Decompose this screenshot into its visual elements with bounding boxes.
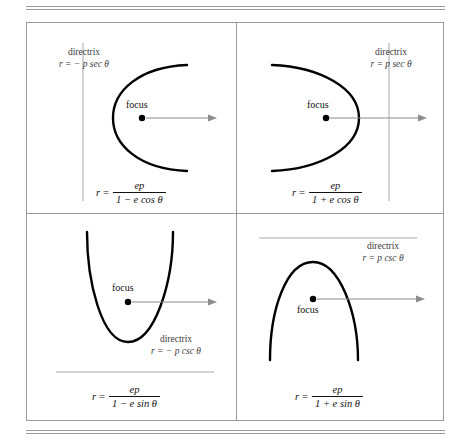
axis-arrowhead bbox=[208, 115, 217, 122]
directrix-title: directrix bbox=[160, 334, 192, 344]
directrix-title: directrix bbox=[375, 47, 407, 57]
equation-equals: = bbox=[302, 391, 308, 402]
polar-equation-top-left: r = ep 1 − e cos θ bbox=[96, 180, 166, 205]
directrix-label-bottom-left: directrix r = − p csc θ bbox=[131, 334, 221, 357]
panel-top-right: directrix r = p sec θ focus r = ep 1 + e… bbox=[237, 23, 445, 213]
focus-point bbox=[310, 296, 316, 302]
focus-point bbox=[125, 299, 131, 305]
directrix-equation: r = − p csc θ bbox=[131, 346, 221, 357]
equation-fraction: ep 1 + e sin θ bbox=[312, 384, 363, 409]
fraction-numerator: ep bbox=[131, 180, 147, 192]
equation-fraction: ep 1 + e cos θ bbox=[309, 180, 362, 205]
directrix-equation: r = p sec θ bbox=[350, 59, 432, 70]
fraction-numerator: ep bbox=[330, 384, 346, 396]
directrix-title: directrix bbox=[68, 47, 100, 57]
fraction-denominator: 1 − e cos θ bbox=[113, 193, 166, 205]
equation-equals: = bbox=[99, 391, 105, 402]
focus-label-bottom-left: focus bbox=[112, 282, 134, 294]
directrix-label-bottom-right: directrix r = p csc θ bbox=[340, 241, 426, 264]
equation-fraction: ep 1 − e sin θ bbox=[109, 384, 160, 409]
top-double-rule bbox=[26, 6, 445, 10]
fraction-numerator: ep bbox=[127, 384, 143, 396]
equation-lhs: r bbox=[92, 391, 96, 402]
equation-equals: = bbox=[103, 187, 109, 198]
polar-equation-top-right: r = ep 1 + e cos θ bbox=[292, 180, 362, 205]
fraction-denominator: 1 + e sin θ bbox=[312, 397, 363, 409]
polar-equation-bottom-right: r = ep 1 + e sin θ bbox=[295, 384, 363, 409]
directrix-equation: r = − p sec θ bbox=[43, 59, 125, 70]
directrix-equation: r = p csc θ bbox=[340, 253, 426, 264]
focus-point bbox=[323, 115, 329, 121]
panel-grid: directrix r = − p sec θ focus r = ep 1 −… bbox=[26, 22, 444, 421]
equation-lhs: r bbox=[96, 187, 100, 198]
bottom-double-rule bbox=[26, 430, 445, 434]
equation-equals: = bbox=[299, 187, 305, 198]
focus-label-bottom-right: focus bbox=[297, 304, 319, 316]
panel-bottom-left: focus directrix r = − p csc θ r = ep 1 −… bbox=[27, 214, 236, 422]
conic-sections-figure: directrix r = − p sec θ focus r = ep 1 −… bbox=[0, 0, 470, 443]
axis-arrowhead bbox=[418, 115, 427, 122]
focus-point bbox=[139, 115, 145, 121]
polar-equation-bottom-left: r = ep 1 − e sin θ bbox=[92, 384, 160, 409]
axis-arrowhead bbox=[416, 296, 425, 303]
directrix-label-top-left: directrix r = − p sec θ bbox=[43, 47, 125, 70]
equation-lhs: r bbox=[292, 187, 296, 198]
panel-bottom-right: directrix r = p csc θ focus r = ep 1 + e… bbox=[237, 214, 445, 422]
focus-label-top-right: focus bbox=[307, 99, 329, 111]
directrix-label-top-right: directrix r = p sec θ bbox=[350, 47, 432, 70]
equation-lhs: r bbox=[295, 391, 299, 402]
fraction-denominator: 1 + e cos θ bbox=[309, 193, 362, 205]
fraction-numerator: ep bbox=[327, 180, 343, 192]
fraction-denominator: 1 − e sin θ bbox=[109, 397, 160, 409]
directrix-title: directrix bbox=[367, 241, 399, 251]
panel-top-left: directrix r = − p sec θ focus r = ep 1 −… bbox=[27, 23, 236, 213]
focus-label-top-left: focus bbox=[126, 99, 148, 111]
axis-arrowhead bbox=[208, 299, 217, 306]
equation-fraction: ep 1 − e cos θ bbox=[113, 180, 166, 205]
